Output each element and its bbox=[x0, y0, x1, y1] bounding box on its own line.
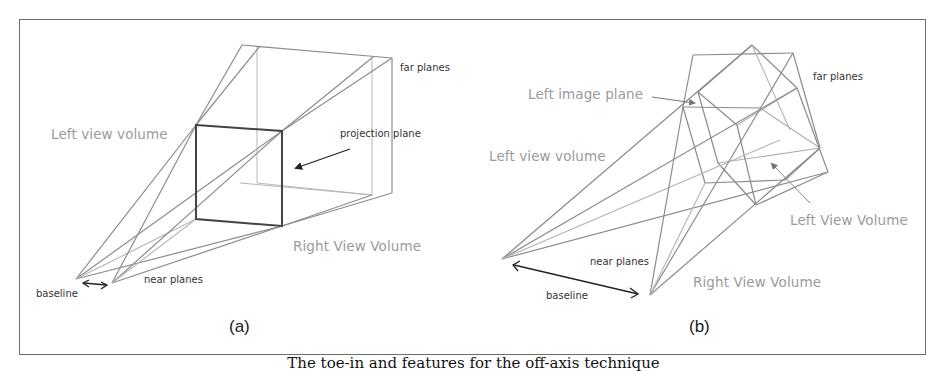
panel-tag-a: (a) bbox=[229, 318, 250, 335]
projection-plane-arrow bbox=[296, 149, 350, 168]
label-baseline-b: baseline bbox=[546, 291, 588, 301]
label-projection-plane: projection plane bbox=[340, 129, 421, 139]
far-plane-left bbox=[240, 46, 372, 195]
label-left-view-volume-a: Left view volume bbox=[51, 128, 168, 142]
label-right-view-volume-b: Right View Volume bbox=[693, 276, 821, 290]
label-baseline-a: baseline bbox=[36, 289, 78, 299]
figure-caption: The toe-in and features for the off-axis… bbox=[0, 356, 947, 371]
label-near-planes-b: near planes bbox=[590, 257, 649, 267]
label-far-planes-b: far planes bbox=[813, 72, 863, 82]
left-eye-rays bbox=[76, 125, 282, 279]
baseline-arrow-a bbox=[83, 280, 107, 289]
label-left-view-volume-b: Left view volume bbox=[489, 150, 606, 164]
label-left-view-volume-arrow: Left View Volume bbox=[790, 214, 908, 228]
label-near-planes-a: near planes bbox=[144, 275, 203, 285]
panel-b-geometry bbox=[502, 45, 828, 295]
label-right-view-volume-a: Right View Volume bbox=[293, 240, 421, 254]
right-far-box bbox=[683, 53, 820, 183]
label-far-planes-a: far planes bbox=[400, 63, 450, 73]
label-left-image-plane: Left image plane bbox=[528, 88, 643, 102]
panel-tag-b: (b) bbox=[689, 318, 710, 335]
